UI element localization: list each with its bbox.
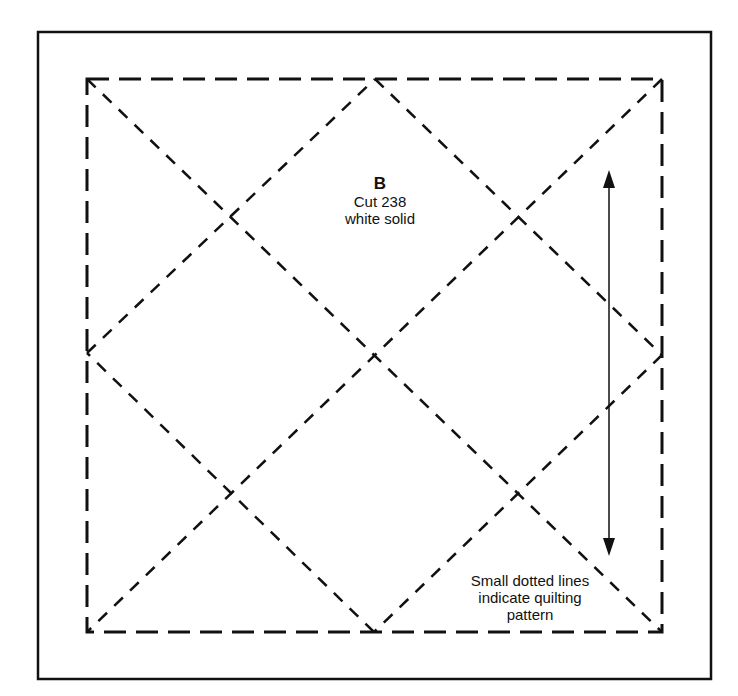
- piece-cut-count: Cut 238: [325, 193, 435, 210]
- quilting-lines: [87, 79, 662, 632]
- pattern-diagram: [0, 0, 738, 696]
- note-line: indicate quilting: [440, 589, 620, 606]
- arrow-down-icon: [603, 538, 615, 556]
- note-line: Small dotted lines: [440, 572, 620, 589]
- piece-label: B Cut 238 white solid: [325, 175, 435, 227]
- piece-letter: B: [325, 175, 435, 193]
- note-line: pattern: [440, 606, 620, 623]
- quilting-note: Small dotted lines indicate quilting pat…: [440, 572, 620, 623]
- arrow-up-icon: [603, 170, 615, 188]
- piece-fabric: white solid: [325, 210, 435, 227]
- grain-arrow: [603, 170, 615, 556]
